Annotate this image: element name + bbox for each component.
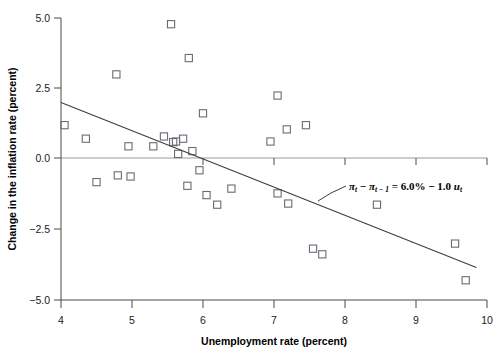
data-point — [373, 201, 380, 208]
data-point — [160, 133, 167, 140]
data-point — [283, 126, 290, 133]
data-point — [462, 277, 469, 284]
data-point — [267, 138, 274, 145]
data-point — [309, 245, 316, 252]
y-tick-label-neg5: −5.0 — [29, 294, 50, 306]
data-point — [167, 21, 174, 28]
data-point-group — [61, 21, 469, 284]
data-point — [125, 143, 132, 150]
y-tick-label-neg2-5: −2.5 — [29, 223, 50, 235]
y-tick-label-5: 5.0 — [35, 12, 50, 24]
data-point — [114, 172, 121, 179]
y-axis-title: Change in the inflation rate (percent) — [6, 67, 18, 250]
data-point — [61, 122, 68, 129]
data-point — [285, 200, 292, 207]
data-point — [196, 167, 203, 174]
x-tick-label-8: 8 — [342, 314, 348, 326]
data-point — [113, 71, 120, 78]
phillips-curve-scatter-chart: 5.0 2.5 0.0 −2.5 −5.0 4 5 6 7 8 9 1 — [0, 0, 500, 359]
data-point — [274, 190, 281, 197]
data-point — [184, 182, 191, 189]
data-point — [451, 240, 458, 247]
data-point — [274, 92, 281, 99]
x-tick-label-9: 9 — [413, 314, 419, 326]
data-point — [180, 135, 187, 142]
data-point — [199, 110, 206, 117]
data-point — [150, 143, 157, 150]
data-point — [82, 135, 89, 142]
y-tick-label-0: 0.0 — [35, 152, 50, 164]
data-point — [175, 150, 182, 157]
data-point — [93, 179, 100, 186]
y-tick-label-2-5: 2.5 — [35, 82, 50, 94]
data-point — [228, 185, 235, 192]
data-point — [214, 201, 221, 208]
data-point — [302, 122, 309, 129]
x-tick-label-4: 4 — [58, 314, 64, 326]
data-point — [185, 54, 192, 61]
x-tick-label-10: 10 — [481, 314, 493, 326]
x-axis-title: Unemployment rate (percent) — [201, 335, 347, 347]
x-axis-ticks — [61, 300, 487, 308]
data-point — [203, 192, 210, 199]
zero-line-ticks — [203, 158, 487, 165]
x-tick-label-5: 5 — [129, 314, 135, 326]
data-point — [127, 173, 134, 180]
y-axis-ticks — [54, 18, 61, 300]
x-tick-label-7: 7 — [271, 314, 277, 326]
regression-equation-annotation: πt − πt − 1 = 6.0% − 1.0 ut — [349, 180, 463, 194]
annotation-leader-line — [318, 186, 346, 201]
chart-canvas: 5.0 2.5 0.0 −2.5 −5.0 4 5 6 7 8 9 1 — [0, 0, 500, 359]
data-point — [319, 251, 326, 258]
x-tick-label-6: 6 — [200, 314, 206, 326]
